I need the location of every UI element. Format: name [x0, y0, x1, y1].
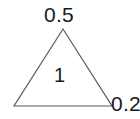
- triangle-bottom-right-label: 0.2: [111, 93, 140, 114]
- triangle-interior-label: 1: [54, 65, 65, 85]
- triangle-figure: 0.5 0.2 1: [0, 0, 140, 119]
- triangle-apex-label: 0.5: [44, 4, 74, 25]
